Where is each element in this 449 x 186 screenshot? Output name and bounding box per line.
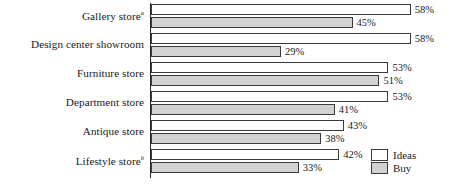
legend-swatch-buy-icon bbox=[371, 162, 388, 174]
category-label: Gallery storea bbox=[82, 10, 144, 22]
bar-buy bbox=[151, 17, 353, 28]
bar-value-label: 53% bbox=[392, 62, 411, 73]
bar-value-label: 58% bbox=[415, 4, 434, 15]
bar-value-label: 42% bbox=[343, 149, 362, 160]
chart-legend: Ideas Buy bbox=[371, 148, 443, 174]
bar-value-label: 38% bbox=[325, 133, 344, 144]
legend-label-buy: Buy bbox=[393, 162, 411, 174]
bar-ideas bbox=[151, 91, 388, 102]
footnote-marker: a bbox=[141, 9, 144, 16]
legend-label-ideas: Ideas bbox=[393, 149, 416, 161]
bar-ideas bbox=[151, 149, 339, 160]
legend-item-ideas: Ideas bbox=[371, 148, 443, 161]
category-label: Department store bbox=[66, 97, 144, 108]
category-label: Lifestyle storeb bbox=[76, 155, 144, 167]
category-label: Antique store bbox=[83, 126, 144, 137]
bar-value-label: 33% bbox=[303, 162, 322, 173]
bar-ideas bbox=[151, 62, 388, 73]
bar-value-label: 51% bbox=[383, 75, 402, 86]
category-label: Design center showroom bbox=[31, 39, 144, 50]
bar-buy bbox=[151, 75, 379, 86]
category-label: Furniture store bbox=[77, 68, 144, 79]
bar-value-label: 43% bbox=[348, 120, 367, 131]
bar-value-label: 58% bbox=[415, 33, 434, 44]
bar-ideas bbox=[151, 33, 411, 44]
footnote-marker: b bbox=[141, 154, 144, 161]
legend-swatch-ideas-icon bbox=[371, 149, 388, 161]
bar-ideas bbox=[151, 4, 411, 15]
category-label-column: Gallery storeaDesign center showroomFurn… bbox=[0, 0, 148, 186]
bar-value-label: 29% bbox=[285, 46, 304, 57]
legend-item-buy: Buy bbox=[371, 161, 443, 174]
bar-buy bbox=[151, 133, 321, 144]
bar-chart: Gallery storeaDesign center showroomFurn… bbox=[0, 0, 449, 186]
bar-ideas bbox=[151, 120, 344, 131]
bar-buy bbox=[151, 46, 281, 57]
bar-buy bbox=[151, 162, 299, 173]
bar-value-label: 41% bbox=[339, 104, 358, 115]
bar-buy bbox=[151, 104, 335, 115]
bar-value-label: 45% bbox=[357, 17, 376, 28]
bar-value-label: 53% bbox=[392, 91, 411, 102]
